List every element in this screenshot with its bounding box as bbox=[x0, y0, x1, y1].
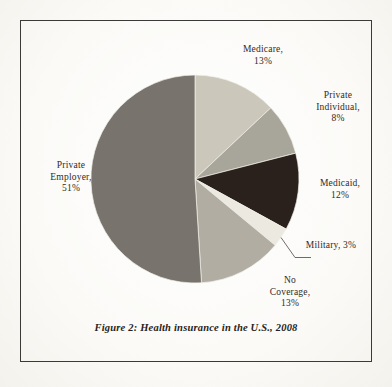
pie-slices-group bbox=[91, 75, 299, 283]
figure-container: Medicare, 13% Private Individual, 8% Med… bbox=[0, 0, 392, 387]
slice-label-private-employer: Private Employer, 51% bbox=[26, 160, 116, 195]
slice-label-no-coverage: No Coverage, 13% bbox=[248, 275, 332, 310]
slice-label-military: Military, 3% bbox=[292, 240, 370, 252]
slice-label-medicare: Medicare, 13% bbox=[218, 44, 308, 67]
slice-label-private-individual: Private Individual, 8% bbox=[294, 90, 382, 125]
figure-caption: Figure 2: Health insurance in the U.S., … bbox=[30, 322, 362, 333]
slice-label-medicaid: Medicaid, 12% bbox=[300, 178, 380, 201]
